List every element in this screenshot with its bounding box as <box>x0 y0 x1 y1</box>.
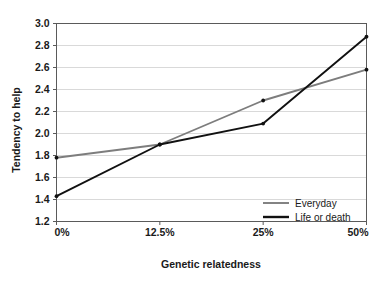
data-point-marker <box>261 122 265 126</box>
y-tick-label: 2.8 <box>35 39 50 51</box>
y-tick-label: 1.8 <box>35 149 50 161</box>
data-point-marker <box>365 35 369 39</box>
y-tick-label: 1.2 <box>35 215 50 227</box>
legend-label-0: Everyday <box>295 198 337 209</box>
data-point-marker <box>55 194 59 198</box>
legend-label-1: Life or death <box>295 212 351 223</box>
chart-figure: 1.21.41.61.82.02.22.42.62.83.0 0%12.5%25… <box>0 0 386 285</box>
y-tick-label: 1.4 <box>35 193 50 205</box>
y-tick-label: 2.6 <box>35 61 50 73</box>
data-point-marker <box>55 156 59 160</box>
chart-background <box>0 0 386 285</box>
tendency-to-help-line-chart: 1.21.41.61.82.02.22.42.62.83.0 0%12.5%25… <box>0 0 386 285</box>
data-point-marker <box>261 99 265 103</box>
data-point-marker <box>158 143 162 147</box>
x-tick-label: 50% <box>347 226 369 238</box>
y-tick-label: 2.2 <box>35 105 50 117</box>
data-point-marker <box>365 68 369 72</box>
y-tick-label: 2.4 <box>35 83 50 95</box>
y-tick-label: 1.6 <box>35 171 50 183</box>
y-axis-title: Tendency to help <box>10 87 22 173</box>
x-tick-label: 0% <box>55 226 71 238</box>
x-tick-label: 12.5% <box>145 226 175 238</box>
x-tick-label: 25% <box>253 226 275 238</box>
y-tick-label: 3.0 <box>35 17 50 29</box>
x-axis-title: Genetic relatedness <box>161 258 261 270</box>
y-tick-label: 2.0 <box>35 127 50 139</box>
